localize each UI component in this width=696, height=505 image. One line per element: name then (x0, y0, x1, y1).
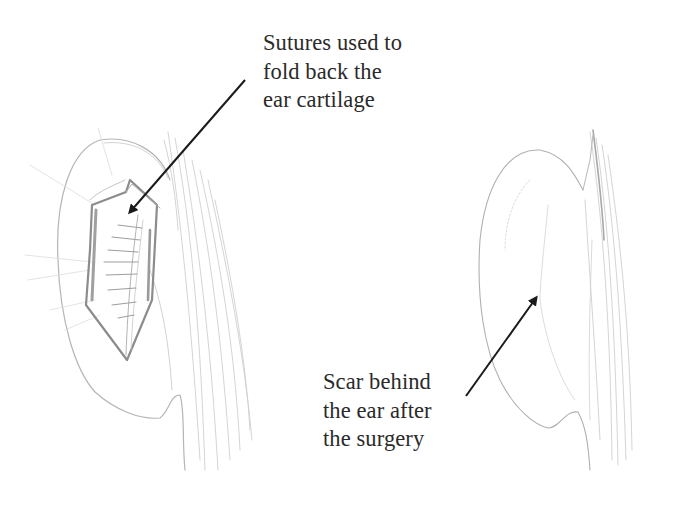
left-incision-outline (86, 180, 157, 360)
annotation-line: Scar behind (323, 368, 432, 397)
sutures-arrow (130, 80, 245, 212)
annotation-line: ear cartilage (263, 86, 402, 115)
sutures-annotation: Sutures used to fold back the ear cartil… (263, 29, 402, 115)
annotation-line: the surgery (323, 425, 432, 454)
right-ear-sketch (479, 130, 632, 470)
right-hair-strands (585, 132, 632, 465)
left-hair-strands (164, 132, 252, 470)
scar-annotation: Scar behind the ear after the surgery (323, 368, 432, 454)
left-sutures (104, 225, 142, 318)
annotation-line: the ear after (323, 397, 432, 426)
annotation-line: Sutures used to (263, 29, 402, 58)
left-ear-sketch (25, 128, 252, 470)
left-radiating-lines (25, 128, 112, 330)
left-ear-outline (58, 139, 185, 470)
annotation-line: fold back the (263, 58, 402, 87)
right-ear-outline (479, 150, 590, 470)
